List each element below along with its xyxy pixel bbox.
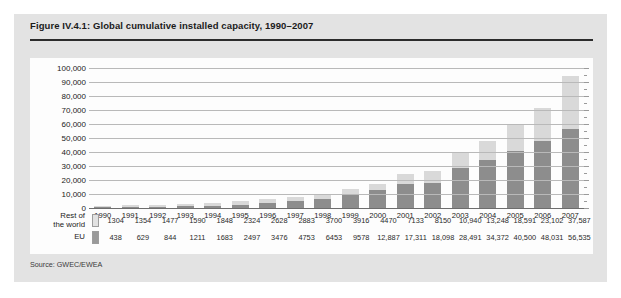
y-axis-minor-tick: [584, 159, 587, 160]
table-cell-eu: 17,311: [402, 233, 429, 242]
table-cell-rest-of-world: 1848: [211, 216, 238, 225]
table-cell-rest-of-world: 2324: [238, 216, 265, 225]
y-axis-tick: [584, 166, 589, 167]
table-cell-eu: 1683: [211, 233, 238, 242]
table-cell-rest-of-world: 7133: [402, 216, 429, 225]
bar-stack: [369, 184, 386, 208]
plot-area: [89, 68, 584, 208]
bar-stack: [314, 194, 331, 208]
legend-swatch-cell-rest: [89, 214, 102, 227]
y-axis-tick-label: 70,000: [32, 106, 86, 115]
y-axis-tick-label: 80,000: [32, 92, 86, 101]
y-axis-tick: [584, 138, 589, 139]
table-cell-eu: 12,887: [375, 233, 402, 242]
bar-segment-rest-of-world: [479, 141, 496, 160]
legend-swatch-rest-of-world: [92, 214, 99, 227]
table-cell-rest-of-world: 3916: [348, 216, 375, 225]
bar-stack: [342, 189, 359, 208]
gridline: [89, 68, 584, 69]
table-cell-rest-of-world: 1477: [157, 216, 184, 225]
bar-segment-eu: [342, 195, 359, 208]
y-axis-tick-label: 20,000: [32, 176, 86, 185]
table-cell-rest-of-world: 1354: [129, 216, 156, 225]
title-divider: [30, 39, 593, 41]
y-axis-tick-label: 10,000: [32, 190, 86, 199]
table-cell-eu: 40,500: [511, 233, 538, 242]
bar-stack: [287, 197, 304, 208]
bar-segment-rest-of-world: [397, 174, 414, 184]
gridline: [89, 110, 584, 111]
table-cell-rest-of-world: 13,248: [484, 216, 511, 225]
gridline: [89, 194, 584, 195]
y-axis-tick: [584, 68, 589, 69]
y-axis-minor-tick: [584, 187, 587, 188]
y-axis-minor-tick: [584, 103, 587, 104]
x-axis-line: [89, 208, 584, 209]
legend-swatch-cell-eu: [89, 231, 102, 244]
table-cell-rest-of-world: 18,591: [511, 216, 538, 225]
table-cell-eu: 34,372: [484, 233, 511, 242]
table-cell-eu: 3476: [266, 233, 293, 242]
gridline: [89, 180, 584, 181]
table-cell-eu: 629: [129, 233, 156, 242]
gridline: [89, 138, 584, 139]
gridline: [89, 152, 584, 153]
table-row-eu: EU 4386298441211168324973476475364539578…: [30, 229, 593, 246]
y-axis-tick: [584, 110, 589, 111]
y-axis-minor-tick: [584, 173, 587, 174]
y-axis-minor-tick: [584, 75, 587, 76]
y-axis-tick: [584, 124, 589, 125]
y-axis-tick: [584, 194, 589, 195]
figure-page: Figure IV.4.1: Global cumulative install…: [0, 0, 621, 298]
table-cell-rest-of-world: 1590: [184, 216, 211, 225]
data-table: Rest of the world 1304135414771590184823…: [30, 212, 593, 246]
bar-segment-eu: [479, 160, 496, 208]
y-axis-minor-tick: [584, 145, 587, 146]
table-cell-eu: 9578: [348, 233, 375, 242]
bar-segment-eu: [452, 168, 469, 208]
legend-swatch-eu: [92, 231, 99, 244]
table-cell-eu: 18,098: [429, 233, 456, 242]
table-cell-eu: 1211: [184, 233, 211, 242]
y-axis-tick-label: 100,000: [32, 64, 86, 73]
y-axis-minor-tick: [584, 117, 587, 118]
bar-stack: [397, 174, 414, 208]
y-axis-minor-tick: [584, 131, 587, 132]
table-cell-rest-of-world: 2883: [293, 216, 320, 225]
table-cell-rest-of-world: 10,940: [457, 216, 484, 225]
bar-segment-eu: [424, 183, 441, 208]
y-axis-minor-tick: [584, 89, 587, 90]
table-cell-rest-of-world: 1304: [102, 216, 129, 225]
bar-segment-eu: [534, 141, 551, 208]
y-axis-tick: [584, 208, 589, 209]
y-axis-tick-label: 60,000: [32, 120, 86, 129]
table-cell-eu: 6453: [320, 233, 347, 242]
table-cell-rest-of-world: 37,587: [566, 216, 593, 225]
bar-segment-eu: [287, 201, 304, 208]
bar-stack: [424, 171, 441, 208]
y-axis-tick-label: 50,000: [32, 134, 86, 143]
y-axis-tick-label: 30,000: [32, 162, 86, 171]
table-cell-rest-of-world: 4470: [375, 216, 402, 225]
table-cell-eu: 56,535: [566, 233, 593, 242]
table-cell-eu: 4753: [293, 233, 320, 242]
bar-segment-rest-of-world: [562, 76, 579, 129]
table-cell-eu: 438: [102, 233, 129, 242]
bar-segment-eu: [369, 190, 386, 208]
gridline: [89, 82, 584, 83]
row-values-eu: 438629844121116832497347647536453957812,…: [102, 233, 593, 242]
y-axis-tick: [584, 82, 589, 83]
table-cell-eu: 844: [157, 233, 184, 242]
table-row-rest-of-world: Rest of the world 1304135414771590184823…: [30, 212, 593, 229]
table-cell-eu: 2497: [238, 233, 265, 242]
figure-card: Figure IV.4.1: Global cumulative install…: [14, 14, 607, 282]
y-axis-tick-label: 40,000: [32, 148, 86, 157]
bar-segment-eu: [397, 184, 414, 208]
gridline: [89, 96, 584, 97]
y-axis-minor-tick: [584, 201, 587, 202]
table-cell-rest-of-world: 3700: [320, 216, 347, 225]
y-axis-tick: [584, 180, 589, 181]
y-axis: 100,00090,00080,00070,00060,00050,00040,…: [30, 68, 86, 208]
figure-title-band: Figure IV.4.1: Global cumulative install…: [14, 14, 607, 47]
table-cell-eu: 48,031: [539, 233, 566, 242]
